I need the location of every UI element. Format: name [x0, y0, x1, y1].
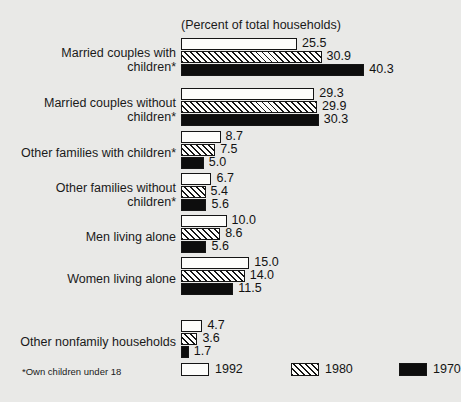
bar-1992 — [181, 257, 249, 269]
bar-1970 — [181, 114, 319, 126]
bar-1992 — [181, 215, 227, 227]
category-label: Other families with children* — [0, 146, 176, 160]
bar-1992 — [181, 131, 221, 143]
category-label: Other families without children* — [0, 181, 176, 209]
bar-value-label: 25.5 — [302, 37, 326, 50]
legend-item-1992[interactable]: 1992 — [181, 362, 243, 376]
category-label: Other nonfamily households — [0, 335, 176, 349]
category-label: Married couples without children* — [0, 96, 176, 124]
bar-1970 — [181, 199, 206, 211]
white-swatch-icon — [181, 363, 209, 376]
bar-1980 — [181, 101, 317, 113]
bar-1970 — [181, 64, 364, 76]
hatched-swatch-icon — [291, 363, 319, 376]
chart-title: (Percent of total households) — [181, 18, 341, 32]
bar-1970 — [181, 241, 206, 253]
black-swatch-icon — [399, 363, 427, 376]
bar-1992 — [181, 320, 202, 332]
chart-footnote: *Own children under 18 — [22, 366, 121, 377]
bar-1970 — [181, 346, 189, 358]
legend-item-1980[interactable]: 1980 — [291, 362, 353, 376]
bar-1970 — [181, 157, 204, 169]
category-label: Women living alone — [0, 272, 176, 286]
bar-1980 — [181, 186, 206, 198]
bar-value-label: 30.9 — [327, 50, 351, 63]
legend-label: 1992 — [215, 362, 243, 376]
bar-1980 — [181, 51, 322, 63]
bar-value-label: 5.0 — [209, 156, 226, 169]
legend-label: 1980 — [325, 362, 353, 376]
category-label: Married couples with children* — [0, 46, 176, 74]
bar-value-label: 5.6 — [211, 240, 228, 253]
bar-1992 — [181, 38, 297, 50]
bar-1992 — [181, 88, 314, 100]
bar-value-label: 5.6 — [211, 198, 228, 211]
legend-item-1970[interactable]: 1970 — [399, 362, 461, 376]
bar-value-label: 11.5 — [238, 282, 261, 295]
bar-value-label: 1.7 — [194, 345, 211, 358]
bar-1992 — [181, 173, 211, 185]
legend-label: 1970 — [433, 362, 461, 376]
bar-value-label: 30.3 — [324, 113, 348, 126]
category-label: Men living alone — [0, 230, 176, 244]
bar-1970 — [181, 283, 233, 295]
bar-1980 — [181, 270, 245, 282]
bar-value-label: 40.3 — [369, 63, 393, 76]
